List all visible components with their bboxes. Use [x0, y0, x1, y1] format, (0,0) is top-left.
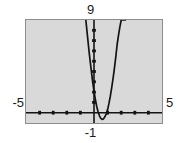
y-tick-mark	[92, 70, 96, 73]
y-tick-mark	[92, 60, 96, 63]
parabola-curve	[86, 20, 125, 119]
y-tick-mark	[92, 50, 96, 53]
x-tick-mark	[52, 111, 55, 115]
x-tick-mark	[79, 111, 82, 115]
x-min-label: -5	[2, 96, 24, 109]
y-max-label: 9	[0, 3, 181, 16]
x-tick-mark	[38, 111, 41, 115]
axes-group	[26, 20, 162, 123]
x-tick-mark	[147, 111, 150, 115]
plot-viewport	[25, 19, 163, 124]
graphing-calculator-widget: 9 -5 5 -1	[0, 0, 181, 143]
x-tick-mark	[133, 111, 136, 115]
x-tick-mark	[120, 111, 123, 115]
plot-canvas	[26, 20, 162, 123]
x-max-label: 5	[166, 96, 180, 109]
y-min-label: -1	[0, 126, 181, 139]
y-tick-mark	[92, 39, 96, 42]
x-tick-mark	[65, 111, 68, 115]
y-tick-mark	[92, 29, 96, 32]
